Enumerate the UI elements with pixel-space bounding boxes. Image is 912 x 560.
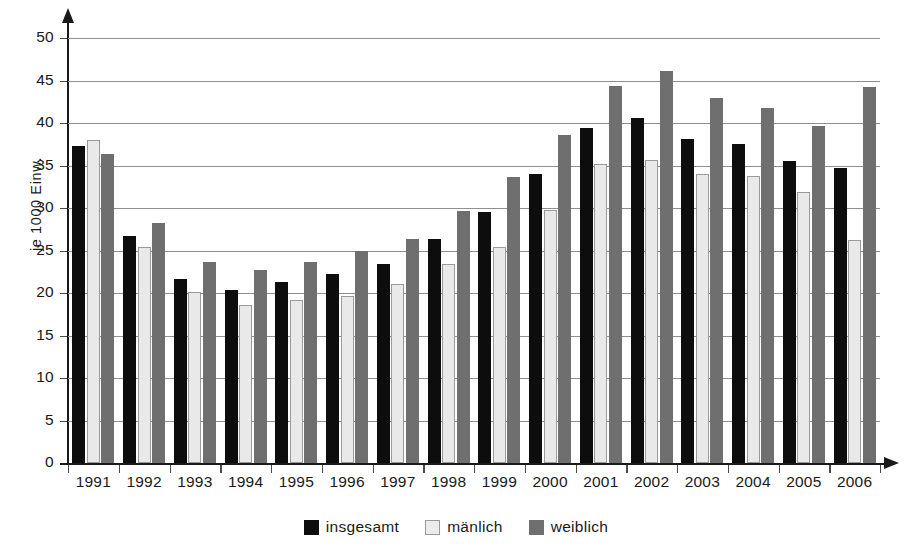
x-axis-tick-mark <box>220 464 221 473</box>
bar-group <box>170 38 221 463</box>
bar-total <box>275 282 288 463</box>
bar-male <box>138 247 151 463</box>
legend-swatch-total-icon <box>304 520 319 535</box>
x-axis-tick-label: 2006 <box>829 473 880 491</box>
bar-total <box>174 279 187 463</box>
bar-male <box>239 305 252 463</box>
bar-total <box>529 174 542 463</box>
y-axis-tick-label: 25 <box>0 241 54 259</box>
x-axis-line <box>60 463 886 465</box>
bar-total <box>123 236 136 463</box>
legend-label: mänlich <box>447 518 503 536</box>
bar-group <box>119 38 170 463</box>
bar-female <box>558 135 571 463</box>
bar-total <box>377 264 390 463</box>
y-axis-arrow-icon <box>62 8 74 23</box>
x-axis-tick-mark <box>576 464 577 473</box>
x-axis-tick-label: 1993 <box>170 473 221 491</box>
bar-total <box>732 144 745 463</box>
x-axis-tick-mark <box>677 464 678 473</box>
bar-female <box>457 211 470 463</box>
bar-group <box>373 38 424 463</box>
bar-male <box>696 174 709 463</box>
bar-total <box>783 161 796 463</box>
bar-male <box>645 160 658 463</box>
x-axis-tick-label: 2002 <box>626 473 677 491</box>
bar-total <box>428 239 441 463</box>
bar-group <box>220 38 271 463</box>
bar-female <box>406 239 419 463</box>
x-axis-tick-mark <box>779 464 780 473</box>
bar-male <box>848 240 861 463</box>
bar-chart: je 1000 Einw. 05101520253035404550 19911… <box>0 0 912 560</box>
x-axis-tick-mark <box>626 464 627 473</box>
bar-total <box>72 146 85 463</box>
bar-female <box>863 87 876 463</box>
bar-female <box>355 251 368 463</box>
bar-group <box>68 38 119 463</box>
bar-total <box>225 290 238 463</box>
bar-group <box>576 38 627 463</box>
legend-swatch-female-icon <box>529 520 544 535</box>
bar-total <box>681 139 694 463</box>
bar-female <box>254 270 267 463</box>
bar-male <box>747 176 760 463</box>
bar-group <box>779 38 830 463</box>
y-axis-tick-label: 5 <box>0 411 54 429</box>
bar-group <box>525 38 576 463</box>
legend-item-female[interactable]: weiblich <box>529 518 609 536</box>
bar-total <box>834 168 847 463</box>
bar-female <box>152 223 165 463</box>
x-axis-arrow-icon <box>884 457 899 469</box>
x-axis-tick-label: 1992 <box>119 473 170 491</box>
legend-item-total[interactable]: insgesamt <box>304 518 399 536</box>
bar-group <box>829 38 880 463</box>
x-axis-tick-mark <box>829 464 830 473</box>
x-axis-tick-mark <box>68 464 69 473</box>
legend-label: weiblich <box>551 518 609 536</box>
x-axis-tick-mark <box>271 464 272 473</box>
x-axis-tick-mark <box>525 464 526 473</box>
bar-group <box>474 38 525 463</box>
x-axis-tick-label: 1999 <box>474 473 525 491</box>
bar-male <box>544 210 557 463</box>
x-axis-tick-label: 2000 <box>525 473 576 491</box>
bar-male <box>87 140 100 463</box>
x-axis-tick-label: 1996 <box>322 473 373 491</box>
x-axis-tick-mark <box>322 464 323 473</box>
bar-female <box>101 154 114 463</box>
y-axis-tick-label: 30 <box>0 198 54 216</box>
bar-female <box>609 86 622 463</box>
bar-group <box>423 38 474 463</box>
legend-item-male[interactable]: mänlich <box>425 518 503 536</box>
x-axis-tick-mark <box>373 464 374 473</box>
y-axis-tick-label: 0 <box>0 453 54 471</box>
bar-group <box>626 38 677 463</box>
x-axis-tick-mark <box>880 464 881 473</box>
bar-female <box>203 262 216 463</box>
x-axis-tick-mark <box>119 464 120 473</box>
bar-female <box>812 126 825 463</box>
y-axis-tick-label: 50 <box>0 28 54 46</box>
bar-male <box>341 296 354 463</box>
bar-male <box>391 284 404 463</box>
y-axis-tick-label: 40 <box>0 113 54 131</box>
bar-male <box>797 192 810 463</box>
x-axis-tick-mark <box>474 464 475 473</box>
x-axis-tick-label: 1997 <box>373 473 424 491</box>
bar-female <box>304 262 317 463</box>
bar-total <box>631 118 644 463</box>
x-axis-tick-mark <box>170 464 171 473</box>
bar-female <box>710 98 723 463</box>
bar-female <box>507 177 520 463</box>
bar-total <box>580 128 593 463</box>
bar-male <box>594 164 607 463</box>
bar-group <box>728 38 779 463</box>
legend-swatch-male-icon <box>425 520 440 535</box>
y-axis-tick-label: 45 <box>0 71 54 89</box>
bar-group <box>271 38 322 463</box>
y-axis-tick-label: 10 <box>0 368 54 386</box>
y-axis-tick-label: 35 <box>0 156 54 174</box>
bar-female <box>761 108 774 463</box>
bar-group <box>322 38 373 463</box>
